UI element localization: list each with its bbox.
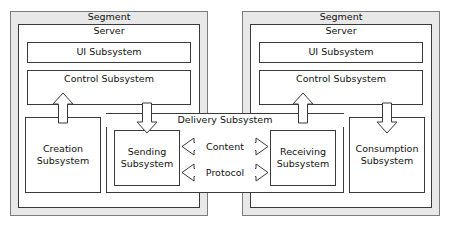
- creation-subsystem-label-line1: Creation: [37, 143, 89, 155]
- consumption-subsystem-label-line1: Consumption: [356, 143, 419, 155]
- server-right-title: Server: [250, 26, 432, 38]
- control-subsystem-left-label: Control Subsystem: [27, 74, 191, 88]
- ui-subsystem-right-label: UI Subsystem: [259, 42, 423, 63]
- sending-subsystem-label-line2: Subsystem: [121, 158, 173, 170]
- sending-subsystem-label-line1: Sending: [121, 146, 173, 158]
- control-subsystem-right-label: Control Subsystem: [259, 74, 423, 88]
- receiving-subsystem-label: Receiving Subsystem: [270, 130, 336, 186]
- protocol-channel-label: Protocol: [195, 166, 255, 179]
- creation-subsystem-label-line2: Subsystem: [37, 155, 89, 167]
- server-left-title: Server: [18, 26, 200, 38]
- creation-subsystem-label: Creation Subsystem: [25, 117, 101, 193]
- delivery-subsystem-label: Delivery Subsystem: [106, 114, 344, 127]
- ui-subsystem-left-label: UI Subsystem: [27, 42, 191, 63]
- receiving-subsystem-label-line2: Subsystem: [277, 158, 329, 170]
- consumption-subsystem-label-line2: Subsystem: [356, 155, 419, 167]
- diagram-canvas: Segment Server UI Subsystem Control Subs…: [0, 0, 450, 232]
- sending-subsystem-label: Sending Subsystem: [114, 130, 180, 186]
- consumption-subsystem-label: Consumption Subsystem: [349, 117, 425, 193]
- receiving-subsystem-label-line1: Receiving: [277, 146, 329, 158]
- content-channel-label: Content: [195, 140, 255, 153]
- segment-left-title: Segment: [10, 12, 208, 24]
- segment-right-title: Segment: [242, 12, 440, 24]
